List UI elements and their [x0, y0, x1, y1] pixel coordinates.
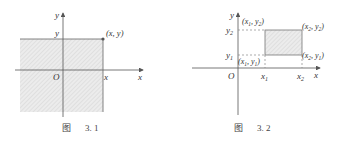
diagram-canvas: y y (x, y) O x x 图 3. 1 y y2 y1 (x1, y2)…	[0, 0, 342, 145]
y2-tick-label: y2	[225, 25, 233, 36]
figure-3-2: y y2 y1 (x1, y2) (x2, y2) (x1, y1) (x2, …	[192, 10, 324, 133]
caption-number: 3. 2	[257, 123, 271, 133]
corner-label-bottom-left: (x1, y1)	[238, 57, 260, 67]
figure-3-1: y y (x, y) O x x 图 3. 1	[15, 10, 143, 133]
y-axis-label: y	[54, 10, 59, 20]
x1-tick-label: x1	[260, 71, 268, 82]
shaded-region	[20, 39, 103, 112]
point-marker	[101, 37, 104, 40]
y1-tick-label: y1	[225, 50, 233, 61]
x2-tick-label: x2	[296, 71, 304, 82]
origin-label: O	[228, 71, 235, 81]
caption-prefix: 图	[234, 123, 243, 133]
caption-number: 3. 1	[85, 123, 99, 133]
x-axis-label: x	[137, 72, 142, 82]
y-axis-label: y	[229, 10, 234, 20]
corner-label-top-right: (x2, y2)	[302, 22, 324, 32]
shaded-rectangle	[265, 30, 302, 55]
corner-label-bottom-right: (x2, y1)	[302, 51, 324, 61]
x-axis-label: x	[313, 70, 318, 80]
y-tick-label: y	[54, 28, 59, 38]
point-label: (x, y)	[106, 28, 124, 38]
corner-label-top-left: (x1, y2)	[242, 17, 264, 27]
x-tick-label: x	[103, 72, 108, 82]
origin-label: O	[53, 72, 60, 82]
caption-prefix: 图	[62, 123, 71, 133]
